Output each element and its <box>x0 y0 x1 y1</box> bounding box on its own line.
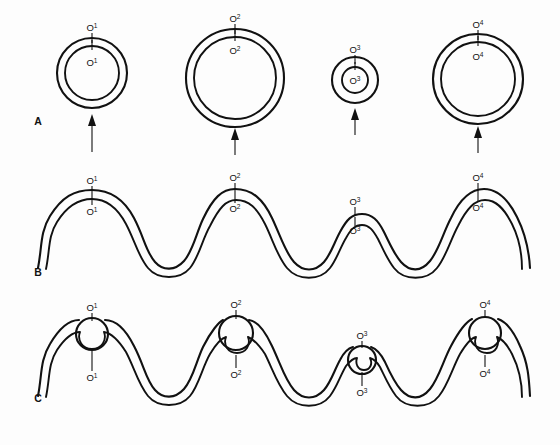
panel-c-o1-inner-label: O1 <box>86 372 97 384</box>
panel-b-o4-inner-label: O4 <box>472 202 483 214</box>
replicon-o1-arrow <box>88 114 96 152</box>
replicon-o1-inner-circle <box>65 46 119 100</box>
replicon-o4: O4 O4 <box>433 19 523 154</box>
replicon-o3-inner-label: O3 <box>349 75 360 87</box>
replicon-o2: O2 O2 <box>186 13 284 156</box>
panel-letter-b: B <box>34 266 42 278</box>
replicon-origins-figure: O1 O1 O2 O2 <box>0 0 560 445</box>
replicon-o3: O3 O3 <box>332 44 378 136</box>
panel-letter-c: C <box>34 392 42 404</box>
panel-letter-a: A <box>34 115 42 127</box>
replicon-o4-outer-circle <box>433 34 523 124</box>
replicon-o4-arrow <box>474 126 482 153</box>
replicon-o2-arrow <box>231 128 239 155</box>
panel-c-o1-outer-label: O1 <box>86 302 97 314</box>
replicon-o2-outer-circle <box>186 29 284 127</box>
replicon-o2-outer-label: O2 <box>229 13 240 25</box>
panel-c-group: O1 O1 O2 O2 O3 O3 O4 O4 C <box>34 299 530 406</box>
replicon-o2-inner-label: O2 <box>229 45 240 57</box>
panel-b-origin-o1: O1 O1 <box>86 175 97 218</box>
panel-c-o3-inner-label: O3 <box>356 387 367 399</box>
replicon-o1-outer-label: O1 <box>86 22 97 34</box>
panel-b-o4-outer-label: O4 <box>472 172 483 184</box>
replicon-o4-outer-label: O4 <box>472 19 483 31</box>
panel-b-origin-o4: O4 O4 <box>472 172 483 214</box>
panel-b-o3-inner-label: O3 <box>349 225 360 237</box>
replicon-o1-arrow-head <box>88 114 96 126</box>
panel-b-group: O1 O1 O2 O2 O3 O3 O4 O4 B <box>34 172 530 279</box>
panel-b-origin-o3: O3 O3 <box>349 196 360 237</box>
replicon-o4-arrow-head <box>474 126 482 138</box>
panel-c-origin-o2: O2 O2 <box>230 299 241 381</box>
panel-b-o2-outer-label: O2 <box>229 172 240 184</box>
figure-canvas: O1 O1 O2 O2 <box>0 0 560 445</box>
panel-c-origin-o1: O1 O1 <box>86 302 97 384</box>
panel-c-o4-inner-label: O4 <box>479 368 490 380</box>
replicon-o1-inner-label: O1 <box>86 57 97 69</box>
panel-c-origin-o4: O4 O4 <box>479 299 490 380</box>
panel-b-origin-o2: O2 O2 <box>229 172 240 215</box>
panel-b-o1-outer-label: O1 <box>86 175 97 187</box>
panel-c-outer-strand <box>38 319 530 398</box>
panel-c-o4-outer-label: O4 <box>479 299 490 311</box>
replicon-o3-arrow-head <box>351 108 359 120</box>
panel-b-inner-strand <box>46 199 522 278</box>
replicon-o2-arrow-head <box>231 128 239 140</box>
panel-b-o1-inner-label: O1 <box>86 206 97 218</box>
replicon-o3-arrow <box>351 108 359 135</box>
panel-c-o2-inner-label: O2 <box>230 369 241 381</box>
panel-c-o1-bubble <box>76 318 108 350</box>
panel-c-o2-outer-label: O2 <box>230 299 241 311</box>
panel-b-o2-inner-label: O2 <box>229 203 240 215</box>
panel-b-o3-outer-label: O3 <box>349 196 360 208</box>
panel-c-o3-outer-label: O3 <box>356 330 367 342</box>
replicon-o3-outer-label: O3 <box>349 44 360 56</box>
replicon-o4-inner-label: O4 <box>472 51 483 63</box>
panel-c-o4-bubble <box>469 317 501 349</box>
panel-a-group: O1 O1 O2 O2 <box>34 13 523 156</box>
panel-c-origin-o3: O3 O3 <box>356 330 367 399</box>
panel-c-inner-strand <box>46 332 522 406</box>
replicon-o1: O1 O1 <box>57 22 127 153</box>
